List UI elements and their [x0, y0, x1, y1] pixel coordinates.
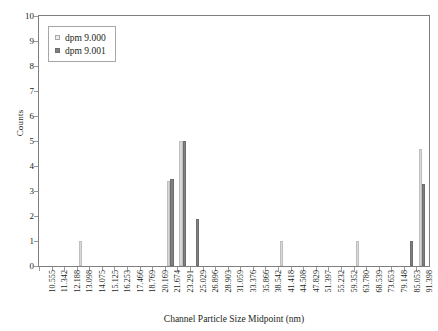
bar: [356, 241, 359, 266]
bar-group: [203, 16, 216, 266]
y-tick-label: 7: [30, 87, 35, 96]
y-tick-label: 10: [25, 12, 34, 21]
x-axis-tick-labels: 10.55511.34212.18813.09814.07515.12516.2…: [39, 270, 429, 312]
x-tick-label: 85.053: [414, 270, 422, 293]
x-tick-label: 31.059: [237, 270, 245, 293]
bar-group: [354, 16, 367, 266]
bar-group: [391, 16, 404, 266]
x-tick-label: 59.352: [351, 270, 359, 293]
x-tick-label: 25.029: [200, 270, 208, 293]
y-tick-label: 5: [30, 137, 35, 146]
y-tick-label: 1: [30, 237, 35, 246]
bar-group: [316, 16, 329, 266]
x-tick-label: 16.253: [124, 270, 132, 293]
x-tick-label: 79.148: [401, 270, 409, 293]
x-tick-label: 38.542: [275, 270, 283, 293]
legend-entry[interactable]: dpm 9.001: [55, 44, 106, 57]
bar: [422, 184, 425, 267]
y-tick-label: 2: [30, 212, 35, 221]
bar-group: [114, 16, 127, 266]
legend-label: dpm 9.001: [65, 46, 106, 56]
x-tick-label: 28.903: [225, 270, 233, 293]
x-tick-label: 21.674: [174, 270, 182, 293]
x-tick-label: 47.829: [313, 270, 321, 293]
bar-group: [165, 16, 178, 266]
x-tick-label: 17.466: [137, 270, 145, 293]
y-tick-label: 4: [30, 162, 35, 171]
bar-group: [404, 16, 417, 266]
bar-group: [215, 16, 228, 266]
y-axis-tick-labels: 012345678910: [0, 15, 38, 267]
bar-group: [140, 16, 153, 266]
legend-label: dpm 9.000: [65, 33, 106, 43]
x-tick-label: 20.169: [162, 270, 170, 293]
x-tick-label: 68.539: [376, 270, 384, 293]
bar-group: [366, 16, 379, 266]
y-tick-label: 0: [30, 262, 35, 271]
bar: [196, 219, 199, 267]
x-tick-label: 23.291: [187, 270, 195, 293]
y-tick-label: 8: [30, 62, 35, 71]
y-tick-label: 6: [30, 112, 35, 121]
x-tick-label: 14.075: [99, 270, 107, 293]
bar-group: [228, 16, 241, 266]
legend-entry[interactable]: dpm 9.000: [55, 31, 106, 44]
x-tick-label: 55.232: [338, 270, 346, 293]
x-tick-label: 35.866: [263, 270, 271, 293]
bar-group: [328, 16, 341, 266]
bar-group: [240, 16, 253, 266]
bar: [170, 179, 173, 267]
bar: [280, 241, 283, 266]
legend-swatch-icon: [55, 48, 60, 53]
x-tick-label: 13.098: [86, 270, 94, 293]
chart-legend: dpm 9.000dpm 9.001: [48, 26, 116, 62]
bar-group: [152, 16, 165, 266]
x-tick-label: 18.769: [149, 270, 157, 293]
x-tick-label: 63.780: [363, 270, 371, 293]
bar-group: [341, 16, 354, 266]
x-tick-label: 12.188: [74, 270, 82, 293]
bar-group: [127, 16, 140, 266]
bar-group: [303, 16, 316, 266]
x-tick-label: 41.418: [288, 270, 296, 293]
y-tick-label: 9: [30, 37, 35, 46]
x-tick-label: 91.398: [426, 270, 434, 293]
bar-group: [177, 16, 190, 266]
x-tick-label: 10.555: [49, 270, 57, 293]
x-axis-title: Channel Particle Size Midpoint (nm): [38, 314, 430, 324]
bar-group: [253, 16, 266, 266]
bar: [410, 241, 413, 266]
bar-group: [416, 16, 429, 266]
x-tick-label: 33.376: [250, 270, 258, 293]
x-tick-label: 15.125: [112, 270, 120, 293]
bar-group: [278, 16, 291, 266]
bar-group: [291, 16, 304, 266]
legend-swatch-icon: [55, 35, 60, 40]
x-tick-label: 44.508: [300, 270, 308, 293]
bar: [79, 241, 82, 266]
y-tick-label: 3: [30, 187, 35, 196]
chart-figure: Counts 012345678910 10.55511.34212.18813…: [0, 0, 438, 331]
bar-group: [265, 16, 278, 266]
bar-group: [190, 16, 203, 266]
x-tick-label: 26.896: [212, 270, 220, 293]
bar: [183, 141, 186, 266]
x-tick-label: 51.397: [325, 270, 333, 293]
bar-group: [379, 16, 392, 266]
x-tick-label: 73.653: [388, 270, 396, 293]
x-tick-label: 11.342: [61, 270, 69, 292]
